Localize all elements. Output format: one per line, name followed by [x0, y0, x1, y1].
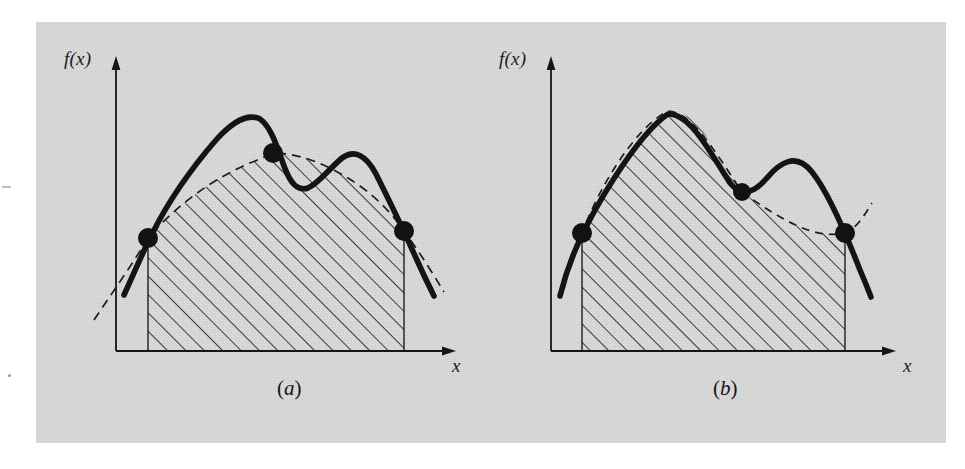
page-speck-bottom-left [8, 374, 11, 377]
panel-a-caption: (a) [277, 376, 302, 401]
panel-b-caption: (b) [713, 376, 738, 401]
panel-a-caption-letter: a [284, 376, 295, 400]
panel-b-caption-letter: b [720, 376, 731, 400]
panel-b-x-axis-label: x [903, 355, 912, 377]
panel-a-y-axis-label: f(x) [64, 48, 91, 70]
panel-b-y-axis-label: f(x) [499, 48, 526, 70]
panel-a-caption-open: ( [277, 376, 284, 400]
scanned-figure-panel [36, 22, 946, 443]
figure-root: f(x) x f(x) x (a) (b) [0, 0, 965, 469]
panel-a-caption-close: ) [295, 376, 302, 400]
page-speck-left [2, 186, 11, 188]
panel-b-caption-open: ( [713, 376, 720, 400]
paper-grain-texture [36, 22, 946, 443]
panel-b-caption-close: ) [731, 376, 738, 400]
panel-a-x-axis-label: x [452, 355, 461, 377]
